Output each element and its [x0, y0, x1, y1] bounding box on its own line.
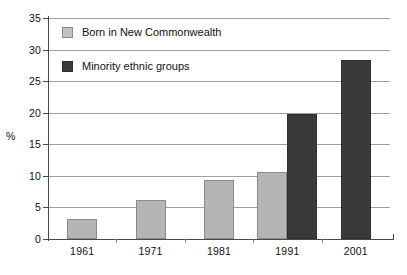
x-tick-label-1991: 1991	[262, 246, 312, 257]
x-tick-label-2001: 2001	[331, 246, 381, 257]
bar-born-in-new-commonwealth-1971	[136, 200, 166, 239]
legend-label: Born in New Commonwealth	[82, 26, 221, 38]
bar-minority-ethnic-groups-2001	[341, 60, 371, 239]
legend-label: Minority ethnic groups	[82, 60, 190, 72]
x-tick-mark-2	[185, 239, 186, 243]
legend-item-minority-ethnic-groups: Minority ethnic groups	[62, 58, 221, 74]
bar-minority-ethnic-groups-1991	[287, 114, 317, 239]
legend-swatch-icon-light	[62, 27, 73, 38]
bar-born-in-new-commonwealth-1991	[257, 172, 287, 239]
chart-legend: Born in New Commonwealth Minority ethnic…	[62, 24, 221, 92]
bar-born-in-new-commonwealth-1981	[204, 180, 234, 239]
legend-item-born-in-new-commonwealth: Born in New Commonwealth	[62, 24, 221, 40]
x-tick-label-1981: 1981	[194, 246, 244, 257]
x-tick-label-1971: 1971	[126, 246, 176, 257]
x-tick-mark-4	[322, 239, 323, 243]
bar-born-in-new-commonwealth-1961	[67, 219, 97, 239]
legend-swatch-icon-dark	[62, 61, 73, 72]
x-tick-label-1961: 1961	[57, 246, 107, 257]
x-tick-mark-1	[116, 239, 117, 243]
bar-chart: 05101520253035 % 19611971198119912001 Bo…	[0, 0, 407, 275]
x-tick-mark-3	[253, 239, 254, 243]
